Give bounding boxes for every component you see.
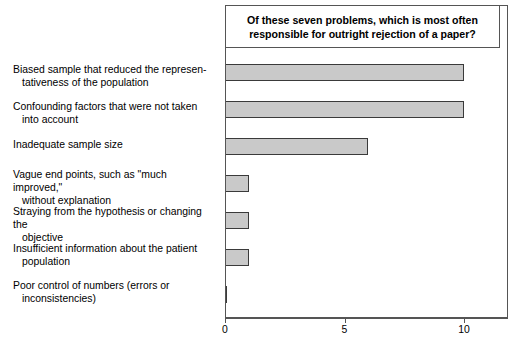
x-tick-1	[345, 318, 346, 323]
bar-5	[225, 249, 249, 266]
x-tick-2	[464, 318, 465, 323]
bar-2	[225, 138, 368, 155]
x-axis-line	[225, 318, 508, 319]
plot-frame-top-right-stub	[499, 5, 508, 49]
bars-layer	[0, 0, 519, 348]
y-axis-line	[225, 48, 226, 318]
x-tick-label-1: 5	[342, 324, 348, 335]
x-tick-label-0: 0	[222, 324, 228, 335]
x-tick-label-2: 10	[458, 324, 470, 335]
bar-1	[225, 101, 464, 118]
chart-title: Of these seven problems, which is most o…	[241, 13, 484, 41]
chart-title-box: Of these seven problems, which is most o…	[225, 5, 500, 48]
x-tick-0	[225, 318, 226, 323]
bar-3	[225, 175, 249, 192]
bar-0	[225, 64, 464, 81]
chart-title-line2: responsible for outright rejection of a …	[247, 27, 478, 41]
bar-chart-figure: Biased sample that reduced the represen-…	[0, 0, 519, 348]
bar-4	[225, 212, 249, 229]
chart-title-line1: Of these seven problems, which is most o…	[247, 14, 478, 26]
